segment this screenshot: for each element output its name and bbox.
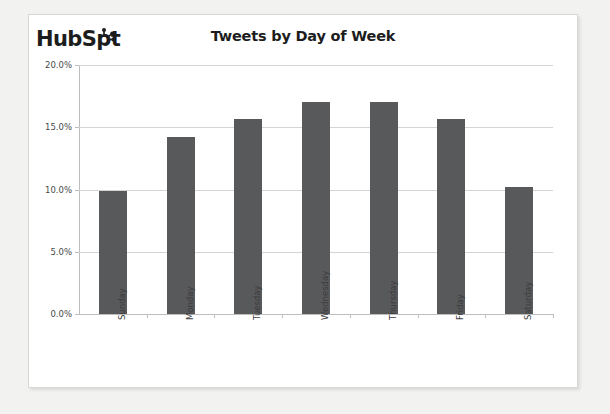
y-tick-label: 5.0% bbox=[50, 247, 72, 257]
y-tick-label: 15.0% bbox=[45, 122, 72, 132]
bar bbox=[437, 119, 465, 314]
x-axis-label: Tuesday bbox=[252, 285, 262, 320]
y-tick-mark bbox=[75, 252, 79, 253]
x-tick-mark bbox=[418, 314, 419, 318]
x-tick-mark bbox=[350, 314, 351, 318]
x-axis-label: Sunday bbox=[117, 288, 127, 320]
gridline bbox=[79, 65, 553, 66]
x-axis-label: Friday bbox=[455, 294, 465, 320]
chart-card: HubSp t Tweets by Day of Week 0.0%5.0%10… bbox=[28, 14, 578, 388]
y-tick-mark bbox=[75, 127, 79, 128]
y-tick-mark bbox=[75, 190, 79, 191]
x-axis-label: Monday bbox=[185, 286, 195, 320]
x-axis-label: Saturday bbox=[523, 282, 533, 320]
x-axis-labels: SundayMondayTuesdayWednesdayThursdayFrid… bbox=[79, 320, 553, 380]
y-tick-label: 20.0% bbox=[45, 60, 72, 70]
y-tick-label: 0.0% bbox=[50, 309, 72, 319]
x-axis-label: Wednesday bbox=[320, 271, 330, 320]
x-tick-mark bbox=[553, 314, 554, 318]
x-tick-mark bbox=[282, 314, 283, 318]
chart-title: Tweets by Day of Week bbox=[29, 28, 577, 44]
y-tick-mark bbox=[75, 65, 79, 66]
y-tick-mark bbox=[75, 314, 79, 315]
x-tick-mark bbox=[485, 314, 486, 318]
x-tick-mark bbox=[214, 314, 215, 318]
y-tick-label: 10.0% bbox=[45, 185, 72, 195]
x-axis-label: Thursday bbox=[388, 280, 398, 320]
gridline bbox=[79, 314, 553, 315]
x-tick-mark bbox=[147, 314, 148, 318]
plot-area: 0.0%5.0%10.0%15.0%20.0% bbox=[79, 65, 553, 314]
